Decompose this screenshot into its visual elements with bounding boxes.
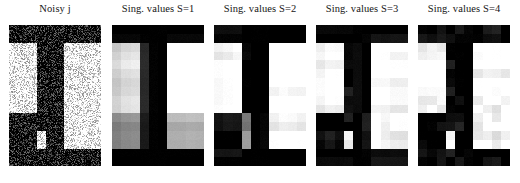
panel-canvas-rank-1 bbox=[112, 25, 204, 166]
image-rank-2 bbox=[214, 25, 306, 166]
panel-title-rank-2: Sing. values S=2 bbox=[214, 2, 306, 16]
panel-rank-3: Sing. values S=3 bbox=[316, 0, 408, 183]
panel-canvas-rank-2 bbox=[214, 25, 306, 166]
panel-title-noisy: Noisy j bbox=[9, 2, 101, 16]
image-rank-3 bbox=[316, 25, 408, 166]
image-rank-4 bbox=[418, 25, 510, 166]
panel-rank-1: Sing. values S=1 bbox=[112, 0, 204, 183]
panel-noisy: Noisy j bbox=[9, 0, 101, 183]
svd-figure: Noisy j Sing. values S=1 Sing. values S=… bbox=[0, 0, 520, 183]
image-noisy bbox=[9, 25, 101, 166]
panel-rank-2: Sing. values S=2 bbox=[214, 0, 306, 183]
panel-canvas-rank-3 bbox=[316, 25, 408, 166]
panel-title-rank-4: Sing. values S=4 bbox=[418, 2, 510, 16]
image-rank-1 bbox=[112, 25, 204, 166]
panel-canvas-rank-4 bbox=[418, 25, 510, 166]
panel-title-rank-1: Sing. values S=1 bbox=[112, 2, 204, 16]
panel-canvas-noisy bbox=[9, 25, 101, 166]
panel-rank-4: Sing. values S=4 bbox=[418, 0, 510, 183]
panel-title-rank-3: Sing. values S=3 bbox=[316, 2, 408, 16]
